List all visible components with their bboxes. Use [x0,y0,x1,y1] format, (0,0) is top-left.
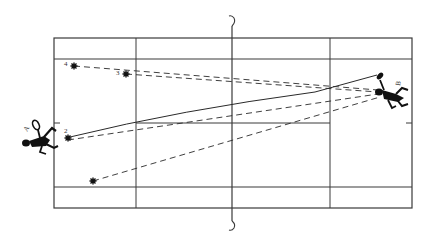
target-3 [123,71,130,78]
target-2-label: 2 [64,127,68,135]
target-4 [71,63,78,70]
net-post-top-icon [229,16,235,26]
star-icon [90,178,97,185]
shot-path-3 [126,74,378,92]
player-a-label: A [22,125,31,133]
target-unlabeled [90,178,97,185]
court-diagram: 4 3 2 A B [0,0,428,251]
player-b-label: B [394,80,403,86]
star-icon [123,71,130,78]
player-b-figure-icon [375,71,408,108]
court-svg: 4 3 2 A B [0,0,428,251]
star-icon [65,135,72,142]
player-a-figure-icon [22,119,58,154]
net-post-bottom-icon [229,221,235,230]
shot-path-2 [68,94,378,140]
solid-return-path [70,75,377,137]
star-icon [71,63,78,70]
target-3-label: 3 [116,69,120,77]
shot-path-4 [74,66,378,90]
target-2 [65,135,72,142]
target-4-label: 4 [64,60,68,68]
